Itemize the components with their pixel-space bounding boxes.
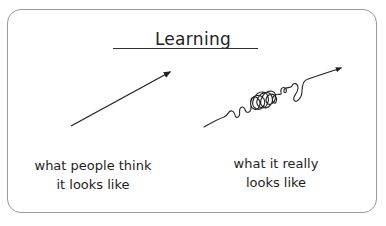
left-caption: what people think it looks like	[23, 156, 163, 194]
squiggly-arrow-icon	[204, 68, 341, 127]
straight-arrow-icon	[71, 72, 170, 126]
left-caption-line1: what people think	[23, 156, 163, 175]
left-caption-line2: it looks like	[23, 175, 163, 194]
right-caption: what it really looks like	[211, 154, 341, 192]
right-caption-line1: what it really	[211, 154, 341, 173]
right-caption-line2: looks like	[211, 173, 341, 192]
diagram-card: Learning what people think it looks like…	[7, 9, 377, 213]
